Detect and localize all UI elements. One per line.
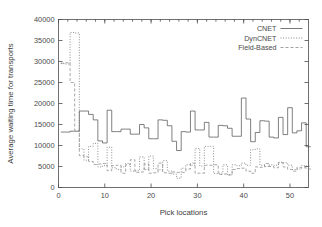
- y-tick-label: 40000: [34, 15, 55, 24]
- legend-label-field-based: Field-Based: [238, 43, 276, 52]
- x-tick-label: 50: [286, 191, 294, 200]
- x-tick-label: 10: [101, 191, 109, 200]
- y-tick-label: 5000: [38, 162, 54, 171]
- y-tick-label: 30000: [34, 57, 55, 66]
- legend-label-dyncnet: DynCNET: [244, 34, 277, 43]
- y-tick-label: 15000: [34, 120, 55, 129]
- y-tick-label: 25000: [34, 78, 55, 87]
- x-axis-title: Pick locations: [160, 208, 208, 217]
- y-tick-label: 10000: [34, 141, 55, 150]
- y-tick-label: 0: [50, 183, 54, 192]
- chart-figure: 0500010000150002000025000300003500040000…: [0, 0, 322, 227]
- legend-label-cnet: CNET: [257, 24, 277, 33]
- x-tick-label: 0: [56, 191, 60, 200]
- y-axis-title: Average waiting time for transports: [6, 43, 15, 163]
- x-tick-label: 30: [193, 191, 201, 200]
- waiting-time-line-chart: 0500010000150002000025000300003500040000…: [0, 0, 322, 227]
- x-tick-label: 20: [147, 191, 155, 200]
- y-tick-label: 35000: [34, 36, 55, 45]
- x-tick-label: 40: [240, 191, 248, 200]
- y-tick-label: 20000: [34, 99, 55, 108]
